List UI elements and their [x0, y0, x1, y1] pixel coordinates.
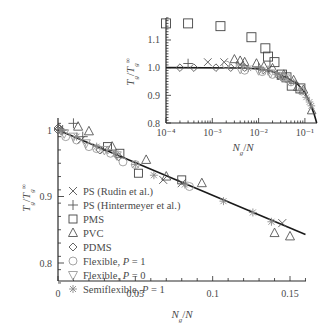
data-point: [270, 228, 279, 237]
data-point: [184, 19, 193, 28]
main-x-tick-label: 0: [56, 288, 61, 299]
data-point: [247, 33, 256, 42]
legend-item-pms: PMS: [69, 214, 104, 225]
legend-item-ps-hintermeyer-et-al: PS (Hintermeyer et al.): [68, 200, 181, 212]
data-point: [219, 197, 227, 205]
data-point: [252, 59, 261, 67]
series-flexible-p-1: [62, 133, 194, 191]
data-point: [249, 208, 257, 216]
legend-marker-asterisk: [69, 285, 77, 293]
data-point: [297, 87, 305, 95]
data-point: [111, 149, 119, 157]
data-point: [286, 231, 295, 240]
inset-x-tick-label: 10⁻³: [203, 127, 221, 138]
legend-label: Semiflexible, P = 1: [83, 284, 165, 295]
legend-item-pvc: PVC: [69, 228, 104, 239]
data-point: [264, 52, 273, 61]
legend-marker-square: [69, 215, 77, 223]
legend-marker-triangle-down: [69, 272, 78, 281]
legend-marker-plus: [68, 200, 78, 210]
legend-marker-x: [69, 187, 77, 195]
data-point: [302, 93, 310, 101]
main-x-axis-label: Ng/N: [170, 308, 193, 324]
data-point: [73, 133, 81, 141]
inset-x-tick-label: 10⁻²: [249, 127, 267, 138]
data-point: [308, 102, 316, 110]
data-point: [245, 64, 253, 72]
data-point: [150, 171, 158, 179]
inset-y-tick-label: 1.1: [148, 34, 161, 45]
data-point: [216, 22, 225, 31]
data-point: [267, 218, 275, 226]
main-x-tick-label: 0.1: [206, 288, 219, 299]
inset-x-tick-label: 10⁻⁴: [157, 127, 176, 138]
data-point: [204, 58, 212, 66]
chart-figure: 00.050.10.150.80.91 Ng/N Tg/Tg∞ PS (Rudi…: [0, 0, 331, 335]
legend-label: PS (Rudin et al.): [83, 186, 154, 198]
legend-label: Flexible, P = 0: [83, 270, 146, 281]
inset-x-tick-label: 10⁻¹: [296, 127, 314, 138]
data-point: [84, 126, 93, 135]
legend-marker-diamond: [69, 243, 77, 251]
legend-item-flexible-p-0: Flexible, P = 0: [69, 270, 146, 281]
legend-item-semiflexible-p-1: Semiflexible, P = 1: [69, 284, 165, 295]
data-point: [261, 44, 270, 53]
data-point: [119, 158, 127, 166]
inset-y-axis-label: Tg/Tg∞: [124, 58, 140, 85]
inset-plot: 10⁻⁴10⁻³10⁻²10⁻¹0.80.91.01.1 Ng/N Tg/Tg∞: [124, 18, 317, 157]
data-point: [273, 71, 281, 79]
main-y-axis-label: Tg/Tg∞: [20, 184, 36, 211]
data-point: [142, 155, 151, 164]
legend-label: PDMS: [83, 242, 112, 253]
data-point: [93, 143, 101, 151]
data-point: [258, 67, 266, 75]
legend-item-ps-rudin-et-al: PS (Rudin et al.): [69, 186, 154, 198]
legend-label: Flexible, P = 1: [83, 256, 146, 267]
legend-label: PVC: [83, 228, 103, 239]
legend-marker-circle: [69, 257, 77, 265]
main-plot: 00.050.10.150.80.91 Ng/N Tg/Tg∞ PS (Rudi…: [20, 118, 306, 324]
legend-item-pdms: PDMS: [69, 242, 112, 253]
data-point: [134, 169, 142, 177]
data-point: [131, 161, 139, 169]
inset-y-tick-label: 0.8: [148, 118, 161, 129]
inset-y-tick-label: 0.9: [148, 90, 161, 101]
main-x-tick-label: 0.15: [281, 288, 299, 299]
legend-label: PS (Hintermeyer et al.): [83, 200, 181, 212]
legend-label: PMS: [83, 214, 104, 225]
inset-x-axis-label: Ng/N: [231, 141, 254, 157]
main-y-tick-label: 0.9: [40, 191, 53, 202]
inset-y-tick-label: 1.0: [148, 62, 161, 73]
legend-item-flexible-p-1: Flexible, P = 1: [69, 256, 146, 267]
data-point: [57, 127, 65, 135]
main-y-tick-label: 0.8: [40, 258, 53, 269]
data-point: [197, 178, 206, 187]
legend: PS (Rudin et al.)PS (Hintermeyer et al.)…: [68, 186, 181, 295]
legend-marker-triangle-up: [69, 228, 78, 237]
data-point: [181, 181, 189, 189]
main-y-tick-label: 1: [47, 125, 52, 136]
data-point: [287, 78, 295, 86]
